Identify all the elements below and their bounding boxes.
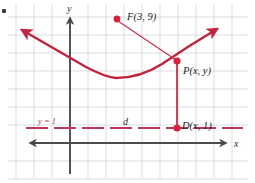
y-axis-label: y — [67, 4, 71, 14]
distance-label: d — [123, 117, 128, 127]
segment-focus-to-p — [118, 21, 176, 60]
directrix-equation-label: y = 1 — [38, 117, 56, 126]
focus-point — [114, 16, 121, 23]
point-d-marker — [173, 124, 180, 131]
figure-canvas — [0, 0, 255, 183]
focus-label: F(3, 9) — [127, 12, 156, 23]
parabola-figure: y x F(3, 9) P(x, y) D(x, 1) y = 1 d — [0, 0, 255, 183]
x-axis-label: x — [234, 139, 238, 149]
point-p-marker — [173, 57, 180, 64]
point-p-label: P(x, y) — [183, 66, 211, 77]
point-d-label: D(x, 1) — [182, 121, 212, 132]
